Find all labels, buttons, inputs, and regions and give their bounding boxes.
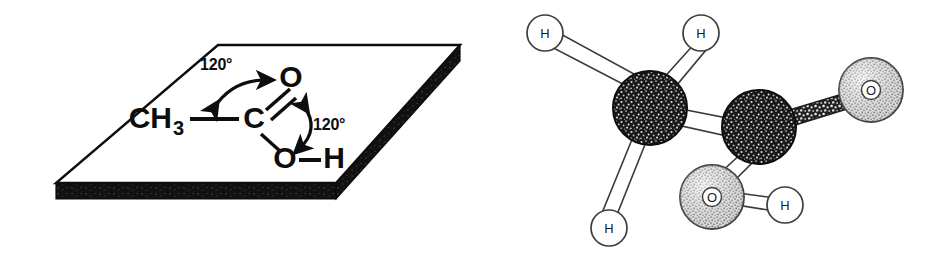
atom-hydrogen-methyl-upper-right: H xyxy=(683,15,719,51)
angle-label-upper: 120° xyxy=(200,56,232,73)
planar-formula-svg: CH 3 C O O H xyxy=(0,0,470,259)
atom-label-h4: H xyxy=(780,198,789,213)
atom-hydrogen-hydroxyl: H xyxy=(767,187,803,223)
hydroxyl-hydrogen-label: H xyxy=(323,141,345,174)
atom-label-h2: H xyxy=(696,26,705,41)
panel-ball-and-stick-model: H H H xyxy=(470,0,941,259)
methyl-subscript: 3 xyxy=(173,117,184,139)
atom-carbon-carboxyl xyxy=(722,90,796,164)
atom-hydrogen-methyl-upper-left: H xyxy=(527,15,563,51)
atom-label-h1: H xyxy=(540,26,549,41)
atom-label-h3: H xyxy=(604,221,613,236)
atom-oxygen-hydroxyl: O xyxy=(680,165,744,229)
methyl-label: CH xyxy=(129,101,172,134)
slab-thickness-front xyxy=(56,183,336,199)
carbonyl-carbon-label: C xyxy=(243,101,265,134)
atom-label-o2: O xyxy=(707,190,717,205)
atom-oxygen-carbonyl: O xyxy=(839,58,903,122)
atom-carbon-methyl xyxy=(613,71,687,145)
chemistry-figure-acetic-acid: CH 3 C O O H xyxy=(0,0,941,259)
bond-methylcarbon-h3 xyxy=(602,137,646,217)
atom-label-o1: O xyxy=(866,83,876,98)
panel-planar-formula: CH 3 C O O H xyxy=(0,0,470,259)
angle-label-lower: 120° xyxy=(313,116,345,133)
ball-and-stick-svg: H H H xyxy=(470,0,941,259)
carbonyl-oxygen-label: O xyxy=(279,60,302,93)
hydroxyl-oxygen-label: O xyxy=(273,141,296,174)
atom-hydrogen-methyl-lower: H xyxy=(591,210,627,246)
